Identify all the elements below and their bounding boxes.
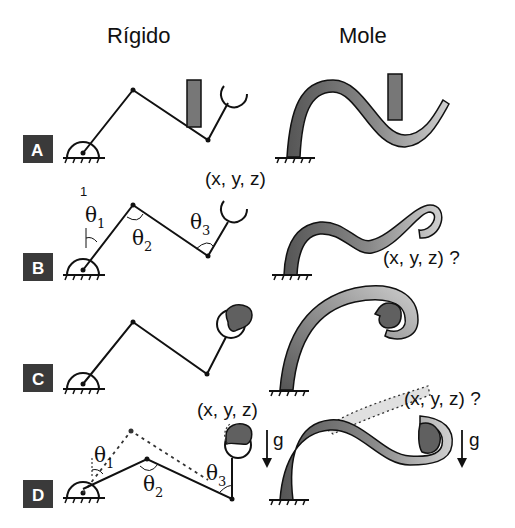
svg-text:C: C: [32, 370, 44, 389]
grasped-object: [226, 424, 252, 444]
grasped-object: [226, 305, 252, 331]
svg-text:D: D: [32, 486, 44, 505]
theta-2: θ2: [132, 226, 152, 254]
theta-1: θ1: [85, 203, 105, 231]
gravity-arrow-soft: g: [457, 429, 480, 468]
grasped-object: [375, 303, 401, 328]
badge-c: C: [23, 364, 53, 392]
row-b: B 1 θ1 θ2 θ3 (x, y, z) (x, y, z) ?: [23, 168, 460, 281]
rigid-arm-c: [63, 305, 252, 394]
gripper-icon: [221, 86, 247, 107]
header-rigid: Rígido: [107, 23, 171, 48]
gravity-arrow-rigid: g: [262, 429, 284, 468]
obstacle: [388, 74, 402, 120]
soft-arm-d: (x, y, z) ? g: [269, 386, 481, 505]
coord-known-b: (x, y, z): [205, 168, 266, 189]
coord-unknown-b: (x, y, z) ?: [383, 247, 460, 268]
rigid-arm-d: θ1 θ2 θ3 (x, y, z) g: [63, 399, 284, 503]
obstacle: [187, 80, 201, 127]
badge-a: A: [23, 135, 53, 163]
row-d: D θ1 θ2 θ3 (x, y, z) g: [23, 386, 481, 508]
theta-2: θ2: [143, 472, 163, 500]
row-c: C: [23, 286, 418, 396]
svg-text:g: g: [273, 429, 284, 450]
badge-b: B: [23, 253, 53, 281]
soft-arm-b: (x, y, z) ?: [272, 205, 460, 280]
coord-unknown-d: (x, y, z) ?: [404, 388, 481, 409]
svg-text:g: g: [469, 429, 480, 450]
rigid-arm-a: [63, 80, 247, 163]
theta-3: θ3: [206, 461, 226, 489]
rigid-arm-b: θ1 θ2 θ3 (x, y, z): [63, 168, 266, 280]
theta-3: θ3: [190, 210, 210, 238]
theta-1: θ1: [94, 443, 114, 471]
badge-d: D: [23, 480, 53, 508]
svg-text:B: B: [32, 259, 44, 278]
stray-label: 1: [80, 184, 87, 199]
diagram-canvas: Rígido Mole A B 1: [0, 0, 515, 528]
coord-known-d: (x, y, z): [197, 399, 258, 420]
header-soft: Mole: [339, 23, 387, 48]
svg-text:A: A: [31, 141, 43, 160]
soft-arm-a: [275, 74, 449, 163]
row-a: A: [23, 74, 449, 163]
gripper-icon: [221, 201, 247, 222]
soft-arm-c: [269, 286, 418, 396]
